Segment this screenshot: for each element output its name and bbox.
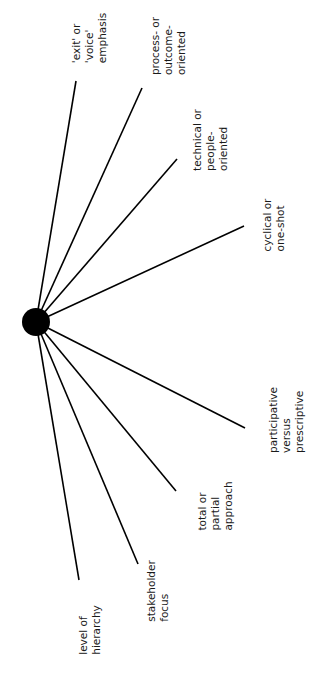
spoke-line-stakeholder-focus — [36, 322, 138, 564]
spoke-label-level-of-hierarchy: level of hierarchy — [77, 605, 103, 655]
spoke-label-technical-people: technical or people- oriented — [191, 109, 230, 171]
spoke-line-cyclical-oneshot — [36, 226, 244, 322]
spoke-line-exit-voice — [36, 81, 76, 322]
spoke-label-cyclical-oneshot: cyclical or one-shot — [261, 199, 287, 252]
hub-circle — [22, 308, 50, 336]
spoke-label-stakeholder-focus: stakeholder focus — [145, 560, 171, 622]
spoke-line-technical-people — [36, 159, 177, 322]
spoke-label-total-partial: total or partial approach — [196, 481, 235, 530]
spoke-line-total-partial — [36, 322, 176, 491]
spoke-line-process-outcome — [36, 88, 142, 322]
spoke-line-level-of-hierarchy — [36, 322, 79, 580]
spoke-label-participative-prescriptive: participative versus prescriptive — [267, 387, 306, 453]
radial-diagram: 'exit' or 'voice' emphasis process- or o… — [0, 0, 318, 690]
spoke-label-process-outcome: process- or outcome- oriented — [149, 17, 188, 75]
spoke-label-exit-voice: 'exit' or 'voice' emphasis — [70, 13, 109, 63]
spoke-line-participative-prescriptive — [36, 322, 245, 428]
